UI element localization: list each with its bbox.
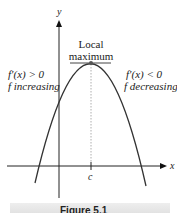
- x-axis-arrow-icon: [160, 163, 167, 169]
- local-maximum-label-line1: Local: [66, 38, 116, 50]
- y-axis-label: y: [57, 6, 61, 18]
- y-axis-arrow-icon: [56, 20, 62, 27]
- figure-caption-bar: Figure 5.1: [10, 203, 170, 213]
- left-derivative-label: f′(x) > 0: [8, 68, 44, 80]
- right-derivative-label: f′(x) < 0: [126, 68, 162, 80]
- x-axis-label: x: [170, 160, 174, 172]
- figure-caption: Figure 5.1: [60, 205, 107, 213]
- right-decreasing-label: f decreasing: [124, 80, 177, 92]
- local-maximum-label-line2: maximum: [62, 50, 120, 62]
- c-tick-label: c: [88, 171, 92, 183]
- left-increasing-label: f increasing: [8, 80, 60, 92]
